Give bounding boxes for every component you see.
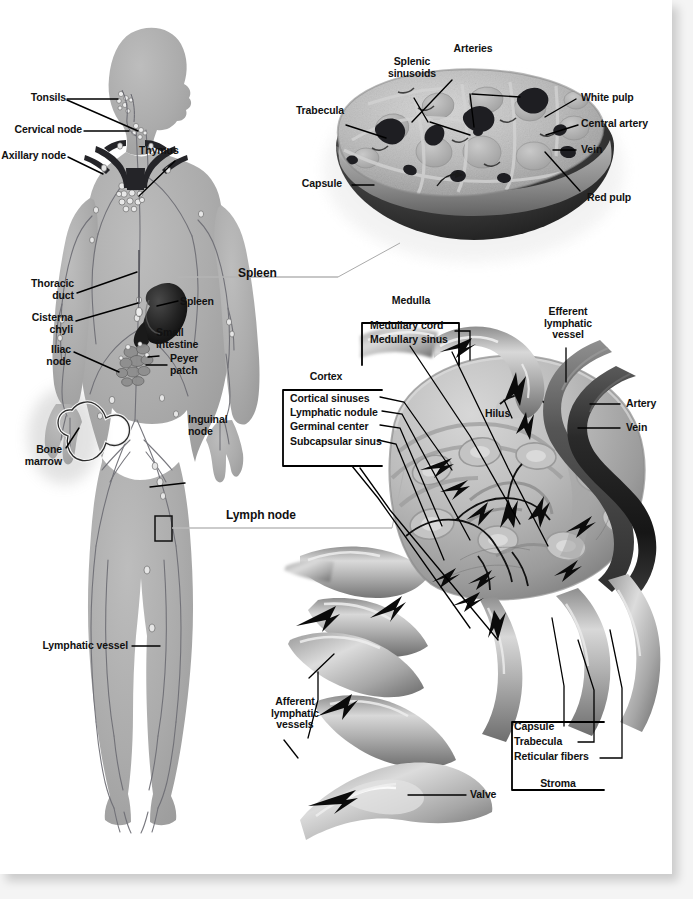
- section-label-lymph-node: Lymph node: [226, 510, 296, 522]
- label-vein: Vein: [626, 422, 647, 434]
- label-afferent-lymphatic-vessels: Afferent lymphatic vessels: [262, 696, 328, 731]
- anatomy-illustration: [0, 0, 693, 899]
- label-thoracic-duct: Thoracic duct: [0, 278, 74, 301]
- label-medulla: Medulla: [381, 295, 441, 307]
- label-spleen-organ: Spleen: [180, 296, 214, 308]
- label-inguinal-node: Inguinal node: [188, 414, 227, 437]
- label-valve: Valve: [470, 789, 496, 801]
- label-small-intestine: Small intestine: [156, 327, 198, 350]
- label-germinal-center: Germinal center: [290, 421, 368, 433]
- label-efferent-lymphatic-vessel: Efferent lymphatic vessel: [537, 306, 599, 341]
- label-peyer-patch: Peyer patch: [170, 353, 198, 376]
- label-trabecula: Trabecula: [276, 105, 344, 117]
- label-thymus: Thymus: [139, 145, 179, 157]
- label-bone-marrow: Bone marrow: [0, 444, 62, 467]
- label-axillary-node: Axillary node: [0, 150, 66, 162]
- label-cortex: Cortex: [301, 371, 351, 383]
- label-splenic-sinusoids: Splenic sinusoids: [381, 56, 443, 79]
- label-iliac-node: Iliac node: [0, 344, 71, 367]
- label-medullary-sinus: Medullary sinus: [370, 334, 448, 346]
- label-subcapsular-sinus: Subcapsular sinus: [290, 436, 382, 448]
- label-stroma: Stroma: [526, 778, 590, 790]
- label-central-artery: Central artery: [581, 118, 648, 130]
- label-hilus: Hilus: [485, 408, 510, 420]
- label-vein: Vein: [581, 144, 602, 156]
- label-arteries: Arteries: [445, 43, 501, 55]
- label-capsule: Capsule: [280, 178, 342, 190]
- label-cervical-node: Cervical node: [0, 124, 82, 136]
- label-medullary-cord: Medullary cord: [370, 320, 443, 332]
- spleen-cross-section: [324, 60, 624, 262]
- label-capsule: Capsule: [514, 721, 554, 733]
- label-trabecula: Trabecula: [514, 736, 562, 748]
- label-white-pulp: White pulp: [581, 92, 634, 104]
- label-reticular-fibers: Reticular fibers: [514, 751, 589, 763]
- cisterna-chyli-node: [136, 308, 142, 317]
- label-tonsils: Tonsils: [0, 92, 66, 104]
- label-lymphatic-vessel: Lymphatic vessel: [0, 640, 128, 652]
- label-lymphatic-nodule: Lymphatic nodule: [290, 407, 378, 419]
- label-artery: Artery: [626, 398, 656, 410]
- label-cortical-sinuses: Cortical sinuses: [290, 393, 370, 405]
- label-red-pulp: Red pulp: [587, 192, 631, 204]
- figure-page: Spleen Lymph node Tonsils Cervical node …: [0, 0, 693, 899]
- section-label-spleen: Spleen: [238, 268, 277, 280]
- label-cisterna-chyli: Cisterna chyli: [0, 312, 73, 335]
